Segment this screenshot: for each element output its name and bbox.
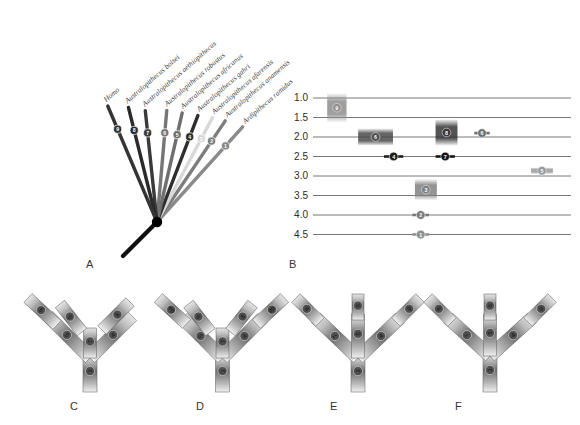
panel-b-chart: 1.01.52.02.53.03.54.04.59686475321	[285, 80, 580, 260]
upper-center-branch: 6	[352, 294, 364, 320]
y-tick-2.5: 2.5	[294, 151, 308, 162]
mid-center-branch: 5	[352, 314, 365, 358]
upper-left-outer-branch: 8	[292, 294, 324, 326]
panel-f-cladogram: 3745869	[415, 292, 565, 402]
y-tick-2.0: 2.0	[294, 131, 308, 142]
range-node-label: 2	[419, 212, 422, 218]
node-label-5: 5	[176, 132, 179, 138]
panel-e-cladogram: 3745869	[288, 292, 428, 402]
panel-a-letter: A	[86, 258, 93, 270]
y-tick-1.0: 1.0	[294, 92, 308, 103]
range-4: 4	[384, 152, 403, 161]
panel-c-cladogram: 3547968	[20, 292, 160, 402]
mid-center-branch: 5	[484, 314, 497, 356]
range-6: 6	[358, 128, 393, 145]
y-tick-4.5: 4.5	[294, 229, 308, 240]
y-tick-1.5: 1.5	[294, 112, 308, 123]
upper-right-outer-branch: 9b	[252, 294, 288, 329]
mid-center-branch: 7	[84, 328, 97, 358]
node-label-2: 2	[210, 138, 213, 144]
panel-d-letter: D	[196, 400, 204, 412]
range-8: 8	[436, 119, 458, 145]
range-node-label: 9	[335, 105, 338, 111]
range-3: 3	[415, 179, 437, 200]
range-node-label: 3	[424, 187, 427, 193]
y-tick-3.5: 3.5	[294, 190, 308, 201]
y-tick-3.0: 3.0	[294, 170, 308, 181]
y-tick-4.0: 4.0	[294, 209, 308, 220]
upper-left-outer-branch: 9a	[154, 294, 190, 329]
root-stem	[123, 222, 157, 256]
range-node-label: 6	[480, 130, 483, 136]
taxon-name-9: Homo	[101, 85, 122, 105]
panel-e-letter: E	[330, 400, 337, 412]
mid-center-branch: 7	[216, 328, 229, 358]
panel-c-letter: C	[70, 400, 78, 412]
range-node-label: 6	[374, 134, 377, 140]
node-label-6: 6	[163, 130, 166, 136]
panel-d: 35479a689b	[150, 292, 295, 402]
range-node-label: 7	[444, 154, 447, 160]
upper-left-outer-branch: 8	[424, 294, 456, 326]
panel-f: 3745869	[415, 292, 565, 402]
panel-c: 3547968	[20, 292, 160, 402]
range-node-label: 1	[419, 232, 422, 238]
node-label-4: 4	[188, 134, 191, 140]
range-5: 5	[531, 166, 553, 175]
panel-b: 1.01.52.02.53.03.54.04.59686475321	[285, 80, 580, 260]
node-label-3: 3	[200, 136, 203, 142]
panel-e: 3745869	[288, 292, 428, 402]
panel-b-letter: B	[289, 258, 296, 270]
node-label-1: 1	[224, 143, 227, 149]
range-2: 2	[412, 211, 429, 220]
node-label-8: 8	[133, 127, 136, 133]
range-node-label: 8	[445, 130, 448, 136]
range-node-label: 5	[540, 168, 543, 174]
upper-right-outer-branch: 9	[524, 294, 556, 326]
node-label-7: 7	[146, 130, 149, 136]
range-6: 6	[474, 129, 489, 138]
panel-f-letter: F	[455, 400, 462, 412]
panel-a-tree: 1Ardipithecus ramidus2Australopithecus a…	[0, 0, 290, 280]
root-node-dot	[152, 217, 162, 227]
range-7: 7	[436, 152, 455, 161]
range-node-label: 4	[392, 154, 395, 160]
panel-a: 1Ardipithecus ramidus2Australopithecus a…	[0, 0, 290, 280]
node-label-9: 9	[116, 126, 119, 132]
panel-d-cladogram: 35479a689b	[150, 292, 295, 402]
upper-center-branch: 6	[484, 294, 496, 320]
range-1: 1	[412, 230, 429, 239]
range-9: 9	[327, 93, 346, 122]
upper-left-outer-branch: 9	[24, 294, 61, 330]
